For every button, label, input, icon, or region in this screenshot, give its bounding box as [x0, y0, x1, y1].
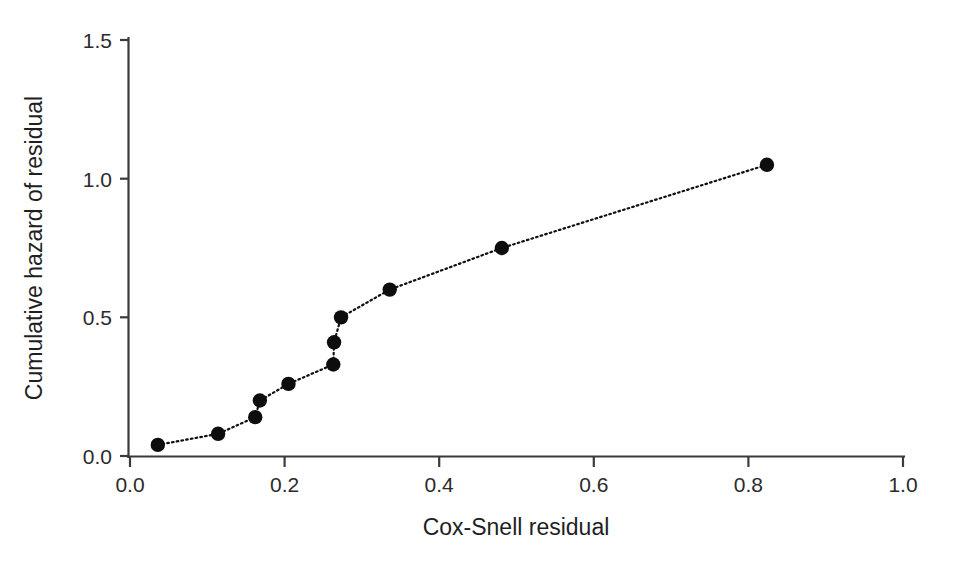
data-point	[281, 377, 295, 391]
data-point	[151, 438, 165, 452]
x-tick-label-4: 0.8	[734, 473, 763, 496]
chart-figure: 1.5 1.0 0.5 0.0 0.0 0.2 0.4 0.6 0.8 1.0 …	[0, 0, 961, 561]
y-tick-label-2: 1.0	[83, 168, 112, 191]
y-axis-title: Cumulative hazard of residual	[21, 96, 47, 400]
data-point	[248, 410, 262, 424]
data-point	[253, 393, 267, 407]
x-axis-ticks	[130, 457, 903, 467]
data-point	[383, 282, 397, 296]
x-tick-label-5: 1.0	[888, 473, 917, 496]
y-tick-label-0: 0.0	[83, 445, 112, 468]
x-axis-title: Cox-Snell residual	[423, 514, 610, 540]
y-axis-ticks	[120, 40, 128, 456]
data-point	[760, 158, 774, 172]
chart-canvas: 1.5 1.0 0.5 0.0 0.0 0.2 0.4 0.6 0.8 1.0 …	[0, 0, 961, 561]
x-tick-label-2: 0.4	[425, 473, 455, 496]
data-point	[327, 335, 341, 349]
y-tick-label-1: 0.5	[83, 306, 112, 329]
data-point	[334, 310, 348, 324]
x-tick-label-3: 0.6	[579, 473, 608, 496]
series-line-path	[158, 165, 767, 445]
series-markers-group	[151, 158, 775, 453]
data-point	[495, 241, 509, 255]
x-tick-label-0: 0.0	[115, 473, 144, 496]
y-axis-tick-labels: 1.5 1.0 0.5 0.0	[83, 29, 112, 468]
data-point	[211, 427, 225, 441]
x-axis-tick-labels: 0.0 0.2 0.4 0.6 0.8 1.0	[115, 473, 917, 496]
y-tick-label-3: 1.5	[83, 29, 112, 52]
data-point	[326, 357, 340, 371]
x-tick-label-1: 0.2	[270, 473, 299, 496]
